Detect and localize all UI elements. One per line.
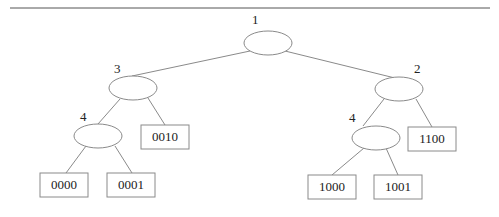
tree-node: 1 [244, 12, 292, 55]
leaf-label: 0001 [118, 177, 144, 192]
leaf-node: 1100 [408, 127, 456, 151]
tree-node: 4 [349, 110, 400, 150]
edge-3-4 [98, 99, 120, 124]
node-label: 1 [252, 12, 259, 27]
edge-4-0001 [115, 146, 132, 173]
tree-node: 4 [74, 109, 122, 148]
leaf-node: 0010 [141, 125, 189, 149]
node-ellipse [74, 124, 122, 148]
leaf-label: 0000 [51, 177, 77, 192]
edge-2-4 [363, 99, 384, 126]
node-ellipse [109, 76, 157, 100]
edge-4-1001 [386, 148, 398, 175]
node-label: 2 [414, 61, 421, 76]
node-label: 3 [114, 61, 121, 76]
edge-4-1000 [332, 148, 364, 175]
tree-node: 3 [109, 61, 157, 100]
leaf-label: 1000 [319, 179, 345, 194]
leaf-label: 0010 [152, 129, 178, 144]
node-ellipse [352, 126, 400, 150]
tree-node: 2 [375, 61, 423, 101]
edge-2-1100 [416, 99, 432, 127]
edges [66, 51, 432, 175]
leaf-label: 1001 [385, 179, 411, 194]
leaf-label: 1100 [419, 131, 445, 146]
leaf-node: 0000 [40, 173, 88, 197]
node-ellipse [375, 77, 423, 101]
leaf-node: 1000 [308, 175, 356, 199]
leaf-node: 1001 [374, 175, 422, 199]
edge-4-0000 [66, 146, 86, 173]
leaf-node: 0001 [107, 173, 155, 197]
edge-1-3 [132, 51, 250, 76]
edge-1-2 [285, 51, 395, 78]
edge-3-0010 [148, 98, 165, 125]
node-label: 4 [80, 109, 87, 124]
trie-diagram: 13244 001000000001110010001001 [0, 0, 499, 217]
node-label: 4 [349, 110, 356, 125]
node-ellipse [244, 31, 292, 55]
